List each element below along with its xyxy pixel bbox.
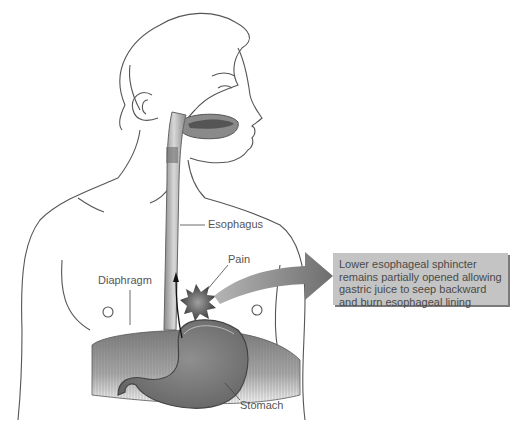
esophagus-label: Esophagus <box>208 218 263 230</box>
oral-cavity <box>182 114 238 139</box>
callout-line: and burn esophageal lining <box>339 296 502 309</box>
callout-line: gastric juice to seep backward <box>339 283 502 296</box>
callout-line: remains partially opened allowing <box>339 271 502 284</box>
diaphragm-label: Diaphragm <box>98 274 152 286</box>
stomach-label: Stomach <box>240 399 283 411</box>
anatomy-figure <box>0 0 519 421</box>
callout-line: Lower esophageal sphincter <box>339 258 502 271</box>
callout-box: Lower esophageal sphincter remains parti… <box>333 253 508 305</box>
pain-label: Pain <box>228 253 250 265</box>
pain-starburst <box>180 284 216 321</box>
ear <box>132 93 158 121</box>
pain-leader <box>207 265 228 290</box>
esophagus <box>164 112 186 330</box>
face-profile <box>190 48 262 163</box>
